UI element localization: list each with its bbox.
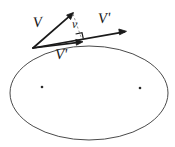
- focus-left-dot: [41, 86, 44, 89]
- focus-right-dot: [139, 87, 142, 90]
- vector-V-prime-upper: [33, 29, 127, 48]
- label-V-initial: V: [32, 15, 42, 31]
- orbit-ellipse: [10, 46, 168, 140]
- label-V-prime-upper: V': [98, 11, 111, 27]
- label-V-prime-lower: V': [55, 47, 68, 62]
- right-angle-marker: [76, 33, 84, 39]
- diagram-canvas: [0, 0, 175, 147]
- label-v-delta: v: [72, 18, 78, 30]
- vector-diagram-figure: V v V' V': [0, 0, 175, 147]
